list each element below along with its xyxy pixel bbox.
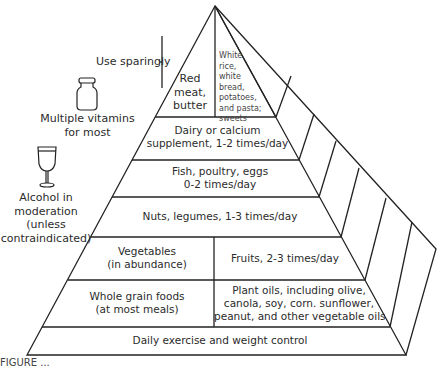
vitamins-label: Multiple vitamins for most [35, 112, 140, 139]
tier-nuts-label: Nuts, legumes, 1-3 times/day [100, 210, 340, 223]
label-line: Alcohol in [0, 191, 92, 205]
label-line: Plant oils, including olive, [214, 284, 384, 297]
label-line: (in abundance) [80, 258, 214, 271]
label-line: sweets [219, 114, 261, 125]
label-line: Fish, poultry, eggs [135, 165, 305, 178]
label-line: Fruits, 2-3 times/day [214, 252, 356, 265]
label-line: Multiple vitamins [35, 112, 140, 126]
label-line: bread, [219, 83, 261, 94]
label-line: supplement, 1-2 times/day [140, 137, 295, 150]
tier-dairy-label: Dairy or calcium supplement, 1-2 times/d… [140, 124, 295, 150]
side-line-6 [390, 222, 412, 327]
label-line: Vegetables [80, 245, 214, 258]
label-line: (at most meals) [60, 303, 214, 316]
label-line: moderation [0, 205, 92, 219]
label-line: peanut, and other vegetable oils [214, 310, 384, 323]
side-line-2 [299, 114, 314, 160]
side-line-5 [365, 198, 386, 280]
alcohol-label: Alcohol in moderation (unless contraindi… [0, 191, 92, 245]
tier-base-label: Daily exercise and weight control [40, 334, 400, 347]
label-line: and pasta; [219, 104, 261, 115]
label-line: Dairy or calcium [140, 124, 295, 137]
label-line: 0-2 times/day [135, 178, 305, 191]
label-line: meat, [168, 86, 212, 100]
tier-grains-label: Whole grain foods (at most meals) [60, 290, 214, 316]
tier-top-left-label: Red meat, butter [168, 72, 212, 113]
side-line-3 [319, 141, 336, 197]
label-line: (unless [0, 218, 92, 232]
label-line: Nuts, legumes, 1-3 times/day [100, 210, 340, 223]
label-line: White [219, 51, 261, 62]
vitamin-bottle-icon [77, 78, 97, 110]
tier-top-right-label: White rice, white bread, potatoes, and p… [219, 51, 261, 125]
figure-caption: FIGURE ... [0, 357, 50, 368]
label-line: rice, [219, 62, 261, 73]
use-sparingly-label: Use sparingly [96, 55, 171, 69]
tier-fish-label: Fish, poultry, eggs 0-2 times/day [135, 165, 305, 191]
label-line: butter [168, 99, 212, 113]
tier-vegetables-label: Vegetables (in abundance) [80, 245, 214, 271]
wine-glass-icon [38, 147, 56, 187]
tier-fruits-label: Fruits, 2-3 times/day [214, 252, 356, 265]
label-line: contraindicated) [0, 232, 92, 246]
tier-oils-label: Plant oils, including olive, canola, soy… [214, 284, 384, 323]
label-line: potatoes, [219, 93, 261, 104]
label-line: canola, soy, corn. sunflower, [214, 297, 384, 310]
side-line-4 [341, 168, 359, 237]
label-line: Whole grain foods [60, 290, 214, 303]
label-line: white [219, 72, 261, 83]
label-line: for most [35, 126, 140, 140]
label-line: Red [168, 72, 212, 86]
label-line: Daily exercise and weight control [40, 334, 400, 347]
